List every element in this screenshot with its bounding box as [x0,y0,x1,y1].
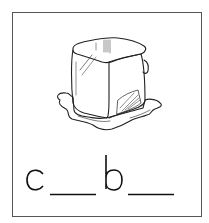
word-puzzle [0,0,209,223]
letter-b [106,155,122,190]
letter-c [27,170,43,189]
